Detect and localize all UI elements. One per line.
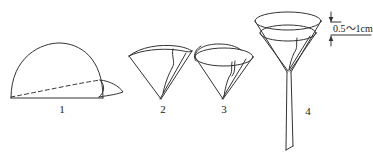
paper-rim-ellipse	[260, 25, 316, 41]
dimension-arrowhead-down	[329, 17, 334, 22]
dimension-arrowhead-up	[329, 36, 334, 41]
funnel-stem-left-wall	[286, 72, 287, 150]
step-4-funnel-shape	[255, 12, 321, 150]
dimension-label: 0.5～1cm	[333, 24, 373, 34]
cone-right-wall	[223, 57, 253, 99]
funnel-stem-right-wall	[291, 72, 293, 146]
paper-interior-fold	[289, 38, 297, 70]
step-label-1: 1	[52, 104, 72, 115]
paper-cone-left-wall	[260, 33, 288, 71]
step-label-4: 4	[298, 106, 318, 117]
step-2-wedge-shape	[129, 45, 192, 99]
step-label-3: 3	[214, 104, 234, 115]
wedge-left-edge	[129, 56, 161, 99]
step-3-cone-shape	[194, 44, 253, 99]
wedge-right-edge	[161, 51, 192, 99]
step-1-semicircle-shape	[11, 43, 123, 98]
funnel-rim-ellipse	[255, 12, 321, 30]
semicircle-dome-outline	[11, 43, 103, 98]
funnel-stem-bottom-cut	[286, 146, 293, 150]
paper-cone-right-wall	[290, 33, 316, 71]
wedge-fold-crease	[163, 49, 174, 93]
cone-rim-ellipse-outer	[195, 48, 253, 66]
cone-left-wall	[195, 57, 223, 99]
cone-rim-lip-back	[195, 44, 241, 57]
semicircle-fold-dashed-line	[11, 80, 100, 97]
cone-interior-fold-second	[232, 61, 235, 76]
step-label-2: 2	[153, 104, 173, 115]
